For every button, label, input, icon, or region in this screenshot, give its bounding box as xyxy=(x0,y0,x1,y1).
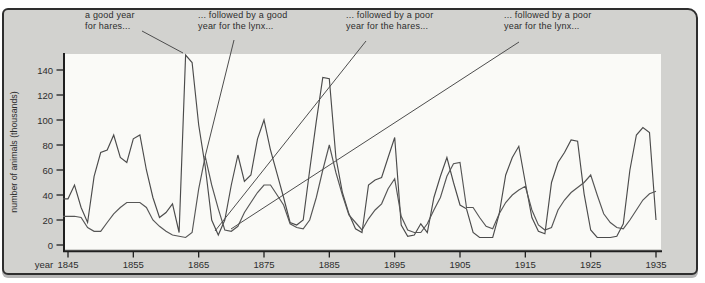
scanned-textbook-figure: 0204060801001201401845185518651875188518… xyxy=(0,0,705,283)
annotation-text: ... followed by a good xyxy=(198,10,287,21)
x-tick-label: 1895 xyxy=(384,259,405,270)
y-tick-label: 100 xyxy=(37,115,53,126)
annotation-text: ... followed by a poor xyxy=(346,10,433,21)
annotation-text: year for the hares... xyxy=(346,21,433,32)
x-tick-label: 1875 xyxy=(253,259,274,270)
annotation-text: ... followed by a poor xyxy=(504,10,591,21)
y-tick-label: 80 xyxy=(42,140,53,151)
x-tick-label: 1925 xyxy=(580,259,601,270)
hare-lynx-population-chart: 0204060801001201401845185518651875188518… xyxy=(0,0,705,283)
x-tick-label: 1935 xyxy=(645,259,666,270)
y-tick-label: 120 xyxy=(37,90,53,101)
x-tick-label: 1885 xyxy=(319,259,340,270)
annotation-text: for hares... xyxy=(85,21,135,32)
y-tick-label: 0 xyxy=(48,240,53,251)
x-tick-label: 1915 xyxy=(515,259,536,270)
x-tick-label: 1905 xyxy=(449,259,470,270)
annotation-good-year-hares: a good year for hares... xyxy=(85,10,135,32)
y-tick-label: 20 xyxy=(42,215,53,226)
annotation-text: a good year xyxy=(85,10,135,21)
annotation-text: year for the lynx... xyxy=(504,21,591,32)
y-tick-label: 140 xyxy=(37,65,53,76)
y-tick-label: 60 xyxy=(42,165,53,176)
annotation-pointer-1 xyxy=(142,31,183,53)
x-axis-title: year xyxy=(35,259,53,270)
annotation-poor-year-lynx: ... followed by a poor year for the lynx… xyxy=(504,10,591,32)
y-axis-title: number of animals (thousands) xyxy=(9,91,19,212)
annotation-poor-year-hares: ... followed by a poor year for the hare… xyxy=(346,10,433,32)
x-tick-label: 1845 xyxy=(57,259,78,270)
x-tick-label: 1855 xyxy=(123,259,144,270)
annotation-text: year for the lynx... xyxy=(198,21,287,32)
x-tick-label: 1865 xyxy=(188,259,209,270)
plot-area xyxy=(64,54,661,249)
annotation-good-year-lynx: ... followed by a good year for the lynx… xyxy=(198,10,287,32)
y-tick-label: 40 xyxy=(42,190,53,201)
